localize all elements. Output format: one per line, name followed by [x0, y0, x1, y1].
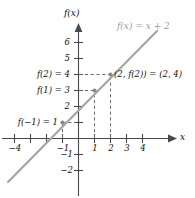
annotation-f-of-2: f(2) = 4: [8, 70, 70, 79]
x-tick-label-2: 2: [106, 144, 116, 153]
x-tick-label-neg4: −4: [8, 144, 22, 153]
annotation-f-of-1: f(1) = 3: [8, 86, 70, 95]
function-equation-label: f(x) = x + 2: [117, 22, 170, 31]
x-tick-label-neg1: −1: [56, 144, 70, 153]
annotation-f-of-neg1: f(−1) = 1: [0, 118, 58, 127]
x-tick-label-3: 3: [122, 144, 132, 153]
y-tick-label-2: 2: [58, 102, 70, 111]
point-1-3: [92, 88, 96, 92]
x-tick-label-1: 1: [90, 144, 100, 153]
point-2-4: [108, 72, 112, 76]
x-tick-label-4: 4: [138, 144, 148, 153]
x-axis-label: x: [180, 133, 185, 142]
y-axis-label: f(x): [64, 9, 79, 18]
x-axis: [2, 134, 177, 143]
function-graph-figure: f(x) x f(x) = x + 2 6 5 2 −1 −2 f(2) = 4…: [0, 0, 195, 198]
annotation-point-2-4: (2, f(2)) = (2, 4): [114, 70, 182, 79]
y-tick-label-5: 5: [58, 54, 70, 63]
y-tick-label-6: 6: [58, 38, 70, 47]
plotted-points: [60, 72, 112, 124]
function-line: [8, 31, 157, 182]
point-neg1-1: [60, 120, 64, 124]
y-axis-arrowhead: [75, 23, 83, 32]
x-axis-arrowhead: [168, 135, 177, 143]
y-tick-label-neg2: −2: [58, 166, 73, 175]
